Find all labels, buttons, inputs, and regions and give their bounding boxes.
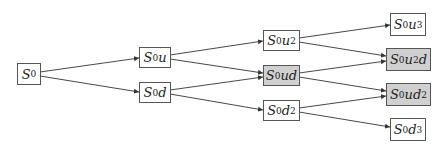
edge-s0d2-s0ud2	[299, 96, 386, 108]
edge-s0u-s0ud	[170, 59, 263, 73]
node-s0u2: S0u2	[263, 30, 300, 51]
node-s0ud: S0ud	[263, 65, 300, 86]
node-s0d: S0d	[139, 82, 171, 103]
edge-s0ud-s0ud2	[299, 77, 386, 91]
edge-s0u2-s0u3	[299, 25, 390, 38]
edge-s0-s0u	[40, 58, 139, 72]
edge-s0d2-s0d3	[299, 112, 390, 127]
edge-s0d-s0ud	[170, 77, 263, 90]
edge-s0d-s0d2	[170, 94, 263, 110]
edge-s0ud-s0u2d	[299, 61, 386, 73]
node-s0: S0	[17, 63, 41, 85]
edge-s0u-s0u2	[170, 41, 263, 55]
node-s0u2d: S0u2d	[386, 48, 431, 71]
node-s0d3: S0d3	[390, 118, 426, 141]
edge-s0u2-s0u2d	[299, 42, 386, 56]
node-s0u3: S0u3	[390, 13, 426, 36]
tree-edges	[0, 0, 445, 145]
node-s0d2: S0d2	[263, 100, 300, 121]
node-s0ud2: S0ud2	[386, 83, 431, 106]
node-s0u: S0u	[139, 47, 171, 68]
edge-s0-s0d	[40, 76, 139, 92]
